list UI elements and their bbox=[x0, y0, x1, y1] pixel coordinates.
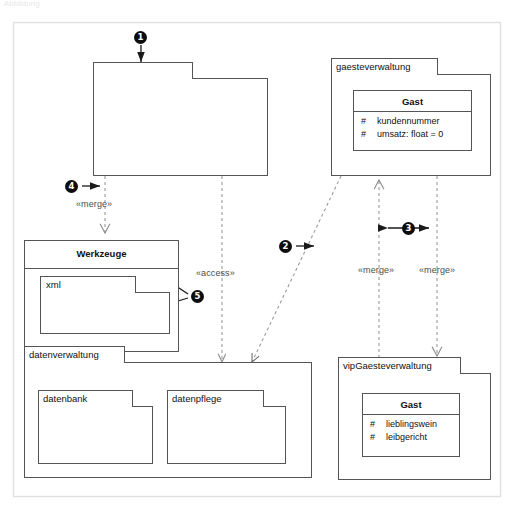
package-vipgaesteverwaltung-label: vipGaesteverwaltung bbox=[343, 360, 432, 371]
stereotype-label-merge-right: «merge» bbox=[419, 265, 455, 275]
visibility-marker: # bbox=[361, 115, 377, 128]
package-datenbank-body[interactable] bbox=[38, 406, 153, 464]
callout-bullet-5[interactable]: 5 bbox=[191, 290, 204, 303]
attribute-text: umsatz: float = 0 bbox=[377, 128, 443, 141]
class-attribute-row: # umsatz: float = 0 bbox=[354, 128, 471, 141]
class-gast-vip-attributes: # lieblingswein # leibgericht bbox=[363, 415, 459, 444]
visibility-marker: # bbox=[370, 431, 386, 444]
package-datenpflege-body[interactable] bbox=[167, 406, 286, 464]
callout-bullet-1[interactable]: 1 bbox=[134, 31, 147, 44]
stereotype-label-merge-left: «merge» bbox=[76, 199, 112, 209]
package-unnamed-top-body[interactable] bbox=[93, 78, 268, 176]
class-gast-vip-name: Gast bbox=[363, 394, 459, 415]
package-unnamed-top-tab[interactable] bbox=[93, 62, 193, 79]
package-xml-label: xml bbox=[46, 279, 61, 290]
callout-bullet-3[interactable]: 3 bbox=[402, 222, 415, 235]
stereotype-label-merge-middle-right: «merge» bbox=[358, 265, 394, 275]
package-datenbank-label: datenbank bbox=[43, 393, 87, 404]
callout-bullet-4[interactable]: 4 bbox=[65, 180, 78, 193]
visibility-marker: # bbox=[361, 128, 377, 141]
package-gaesteverwaltung-label: gaesteverwaltung bbox=[336, 61, 410, 72]
attribute-text: kundennummer bbox=[377, 115, 440, 128]
stereotype-label-access: «access» bbox=[196, 268, 235, 278]
class-attribute-row: # kundennummer bbox=[354, 115, 471, 128]
diagram-canvas: Abbildung bbox=[0, 0, 514, 510]
class-attribute-row: # lieblingswein bbox=[363, 418, 459, 431]
package-xml-second-body[interactable] bbox=[40, 292, 170, 334]
access-gaeste-datenverw-line bbox=[252, 176, 341, 362]
package-werkzeuge-title-separator bbox=[24, 268, 179, 269]
class-gast-standard[interactable]: Gast # kundennummer # umsatz: float = 0 bbox=[353, 90, 472, 151]
package-datenverwaltung-label: datenverwaltung bbox=[29, 349, 99, 360]
attribute-text: leibgericht bbox=[386, 431, 427, 444]
callout-bullet-2[interactable]: 2 bbox=[279, 240, 292, 253]
visibility-marker: # bbox=[370, 418, 386, 431]
class-gast-standard-name: Gast bbox=[354, 91, 471, 112]
class-gast-vip[interactable]: Gast # lieblingswein # leibgericht bbox=[362, 393, 460, 457]
class-gast-standard-attributes: # kundennummer # umsatz: float = 0 bbox=[354, 112, 471, 141]
attribute-text: lieblingswein bbox=[386, 418, 437, 431]
package-werkzeuge-label: Werkzeuge bbox=[24, 248, 179, 259]
class-attribute-row: # leibgericht bbox=[363, 431, 459, 444]
figure-caption: Abbildung bbox=[4, 0, 40, 8]
package-datenpflege-label: datenpflege bbox=[172, 393, 222, 404]
